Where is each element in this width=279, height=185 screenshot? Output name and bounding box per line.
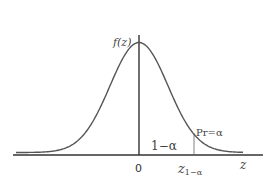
y-axis-label: f(z) <box>112 36 131 49</box>
central-area-label: 1−α <box>151 139 177 153</box>
tail-area-label: Pr=α <box>196 127 223 138</box>
quantile-tick-label: z1−α <box>177 161 203 177</box>
normal-density-chart: f(z) 1−α Pr=α 0 z1−α z <box>0 0 279 185</box>
x-axis-label: z <box>239 158 247 172</box>
origin-tick-label: 0 <box>135 162 142 175</box>
